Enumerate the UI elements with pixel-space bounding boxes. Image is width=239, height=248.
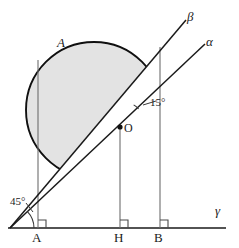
label-angle-15: 15°: [150, 97, 165, 108]
right-angle-mark-a: [38, 220, 46, 228]
label-line-alpha: α: [206, 35, 213, 48]
angle-arc-45: [27, 212, 34, 228]
label-center-o: O: [124, 122, 133, 134]
right-angle-mark-b: [160, 220, 168, 228]
label-region-a: A: [57, 36, 65, 49]
right-angle-mark-h: [120, 220, 128, 228]
point-o-marker: [117, 124, 122, 129]
figure-canvas: [0, 0, 239, 248]
label-point-b: B: [154, 231, 163, 244]
label-point-h: H: [114, 231, 123, 244]
label-angle-45: 45°: [10, 196, 25, 207]
label-line-gamma: γ: [215, 204, 220, 217]
geometry-figure: A H B O A α β γ 45° 15°: [0, 0, 239, 248]
shaded-region-A: [26, 42, 162, 178]
label-line-beta: β: [187, 10, 193, 23]
label-point-a: A: [32, 231, 41, 244]
